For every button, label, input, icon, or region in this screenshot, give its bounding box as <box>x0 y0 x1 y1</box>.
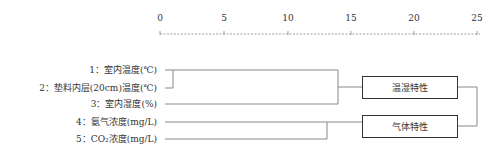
variable-label: 3：室内湿度(%) <box>91 98 157 110</box>
cluster-label: 温湿特性 <box>392 81 428 94</box>
variable-label: 4：氨气浓度(mg/L) <box>76 116 157 128</box>
variable-label: 1：室内温度(℃) <box>89 64 157 76</box>
variable-label: 2：垫料内层(20cm)温度(℃) <box>39 82 157 94</box>
cluster-box-gas: 气体特性 <box>362 115 458 138</box>
cluster-box-temp-humidity: 温湿特性 <box>362 76 458 99</box>
cluster-label: 气体特性 <box>392 120 428 133</box>
variable-label: 5：CO₂浓度(mg/L) <box>76 133 157 145</box>
